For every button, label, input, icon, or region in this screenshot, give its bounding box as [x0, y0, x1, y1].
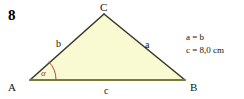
- given-condition-line-1: a = b: [186, 32, 205, 42]
- triangle-shape: [30, 14, 185, 80]
- exercise-number: 8: [8, 7, 16, 23]
- geometry-figure: 8 A B C b a c α a = b c = 8,0 cm: [0, 0, 244, 99]
- triangle-diagram: 8 A B C b a c α a = b c = 8,0 cm: [0, 0, 244, 99]
- vertex-label-c: C: [100, 1, 107, 13]
- side-label-a: a: [145, 39, 150, 50]
- vertex-label-a: A: [8, 81, 16, 93]
- side-label-c: c: [104, 85, 109, 96]
- angle-label-alpha: α: [41, 68, 46, 78]
- side-label-b: b: [56, 38, 61, 49]
- given-condition-line-2: c = 8,0 cm: [186, 45, 224, 55]
- vertex-label-b: B: [190, 81, 197, 93]
